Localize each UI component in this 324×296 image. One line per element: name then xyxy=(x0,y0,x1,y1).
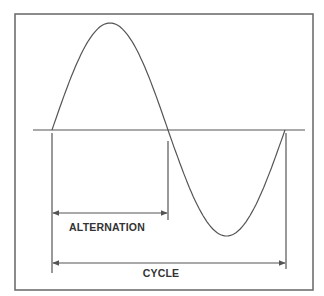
alternation-label: ALTERNATION xyxy=(69,221,145,233)
cycle-label: CYCLE xyxy=(143,267,180,279)
vertical-marker-lines xyxy=(52,133,286,273)
sine-wave-diagram xyxy=(0,0,324,296)
diagram-frame xyxy=(15,14,313,290)
